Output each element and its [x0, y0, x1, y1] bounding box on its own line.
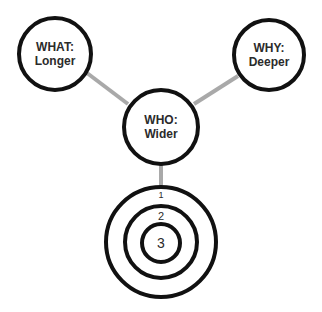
- node-what-title: WHAT:: [25, 40, 85, 54]
- target-ring-1-label: 1: [151, 190, 171, 200]
- connector-why-who: [194, 76, 238, 104]
- node-who-title: WHO:: [131, 113, 191, 127]
- node-what-label: WHAT: Longer: [25, 40, 85, 68]
- node-why-title: WHY:: [239, 41, 299, 55]
- node-what-subtitle: Longer: [25, 54, 85, 68]
- target-ring-2-label: 2: [151, 210, 171, 222]
- node-who-subtitle: Wider: [131, 127, 191, 141]
- connector-what-who: [87, 73, 128, 104]
- target-ring-3-label: 3: [151, 235, 171, 251]
- node-who-label: WHO: Wider: [131, 113, 191, 141]
- node-why-label: WHY: Deeper: [239, 41, 299, 69]
- node-why-subtitle: Deeper: [239, 55, 299, 69]
